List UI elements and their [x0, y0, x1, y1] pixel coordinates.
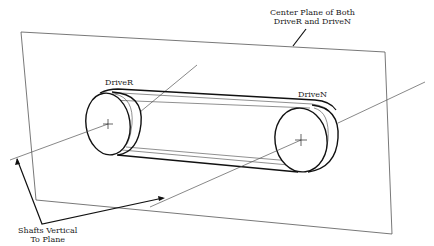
arrow-right-icon — [158, 196, 165, 201]
plane-label: Center Plane of Both DriveR and DriveN — [270, 8, 355, 26]
center-plane — [21, 32, 392, 234]
driven-label: DriveN — [298, 90, 327, 99]
driver-label: DriveR — [105, 78, 133, 87]
shafts-label: Shafts Vertical To Plane — [18, 226, 77, 244]
plane-label-line1: Center Plane of Both — [270, 8, 355, 17]
driven-shaft-front — [150, 140, 301, 207]
driven-shaft-rear — [338, 82, 425, 123]
plane-leader-line — [293, 29, 306, 46]
belt-top-inner2 — [110, 100, 310, 108]
shafts-leader — [17, 159, 163, 224]
belt-drive-diagram — [0, 0, 434, 246]
plane-label-line2: DriveR and DriveN — [270, 17, 355, 26]
shafts-label-line1: Shafts Vertical — [18, 226, 77, 235]
driver-shaft-rear — [140, 65, 197, 112]
shafts-label-line2: To Plane — [18, 235, 77, 244]
arrow-up-icon — [15, 158, 20, 165]
